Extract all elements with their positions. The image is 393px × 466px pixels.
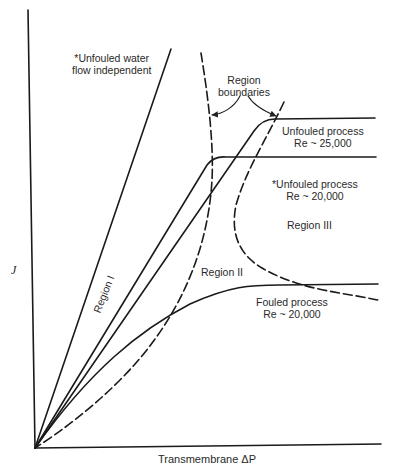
region-boundary-1	[35, 53, 212, 448]
diagram-canvas	[0, 0, 393, 466]
label-region-iii: Region III	[287, 219, 332, 231]
label-unfouled-25000: Unfouled process Re ~ 25,000	[282, 125, 364, 149]
curve-unfouled-water	[35, 49, 171, 448]
boundary-arrow-left	[212, 96, 240, 115]
boundary-arrow-right	[248, 96, 276, 116]
label-line: Fouled process	[256, 296, 328, 308]
y-axis-label: J	[11, 264, 16, 276]
x-axis	[35, 444, 381, 448]
label-region-boundaries: Region boundaries	[218, 74, 270, 98]
label-line: Re ~ 25,000	[282, 137, 364, 149]
label-line: Unfouled process	[282, 125, 364, 137]
label-line: *Unfouled water	[72, 52, 151, 64]
label-fouled-20000: Fouled process Re ~ 20,000	[256, 296, 328, 320]
label-line: flow independent	[72, 64, 151, 76]
label-line: Re ~ 20,000	[272, 190, 358, 202]
label-unfouled-20000: *Unfouled process Re ~ 20,000	[272, 178, 358, 202]
label-line: Region	[218, 74, 270, 86]
label-region-ii: Region II	[201, 266, 243, 278]
label-unfouled-water: *Unfouled water flow independent	[72, 52, 151, 76]
label-line: boundaries	[218, 86, 270, 98]
label-line: *Unfouled process	[272, 178, 358, 190]
y-axis	[28, 10, 35, 448]
label-line: Re ~ 20,000	[256, 308, 328, 320]
x-axis-label: Transmembrane ΔP	[158, 453, 256, 465]
